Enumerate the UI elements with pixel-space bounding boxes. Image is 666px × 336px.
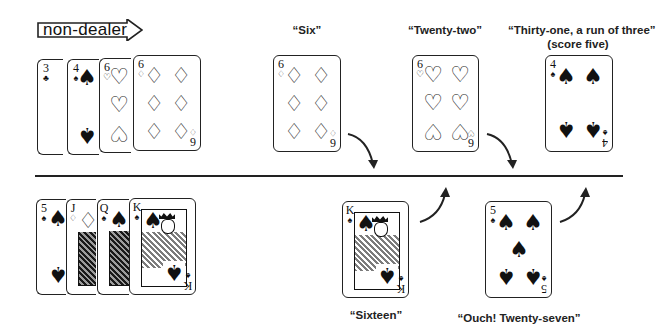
hand-card-K-spades: K♠ ♠ ♠ K♠ bbox=[129, 198, 196, 295]
diamond-pip-icon: ♢ bbox=[170, 65, 192, 87]
curved-arrow-down-icon bbox=[345, 130, 385, 170]
heart-pip-icon: ♡ bbox=[108, 94, 130, 116]
card-rank: 4 bbox=[602, 136, 608, 150]
curved-arrow-up-icon bbox=[418, 186, 452, 226]
played-card-6-hearts: 6♡ ♡ ♡ ♡ ♡ ♡ ♡ 6♡ bbox=[412, 55, 479, 152]
hand-card-6-hearts: 6♡ ♡ ♡ ♡ bbox=[99, 58, 131, 153]
card-rank: 6 bbox=[330, 136, 336, 150]
diamond-pip-icon: ♢ bbox=[283, 93, 305, 115]
spade-pip-icon: ♠ bbox=[355, 213, 377, 235]
heart-pip-icon: ♡ bbox=[449, 92, 471, 114]
turn-divider bbox=[35, 175, 623, 177]
diamond-pip-icon: ♢ bbox=[310, 65, 332, 87]
spade-pip-icon: ♠ bbox=[495, 265, 517, 287]
diamond-pip-icon: ♢ bbox=[283, 121, 305, 143]
play-caption-six: “Six” bbox=[273, 24, 341, 36]
play-caption-ouch-twenty-seven: “Ouch! Twenty-seven” bbox=[455, 312, 583, 324]
played-card-4-spades: 4♠ ♠ ♠ ♠ ♠ 4♠ bbox=[545, 55, 613, 152]
spade-pip-icon: ♠ bbox=[582, 66, 604, 88]
spade-pip-icon: ♠ bbox=[142, 210, 164, 232]
diamond-pip-icon: ♢ bbox=[143, 65, 165, 87]
spade-pip-icon: ♠ bbox=[47, 208, 66, 230]
diamond-pip-icon: ♢ bbox=[310, 93, 332, 115]
play-caption-sixteen: “Sixteen” bbox=[340, 309, 412, 321]
spade-pip-icon: ♠ bbox=[508, 239, 530, 261]
curved-arrow-up-icon bbox=[558, 186, 592, 226]
card-rank: 6 bbox=[190, 135, 196, 149]
card-rank: 6 bbox=[468, 136, 474, 150]
spade-pip-icon: ♠ bbox=[76, 67, 98, 89]
heart-pip-icon: ♡ bbox=[108, 66, 130, 88]
diamond-icon: ♢ bbox=[188, 127, 198, 136]
spade-pip-icon: ♠ bbox=[522, 212, 544, 234]
spade-pip-icon: ♠ bbox=[47, 263, 66, 285]
spade-pip-icon: ♠ bbox=[376, 264, 398, 286]
curved-arrow-down-icon bbox=[484, 130, 524, 170]
heart-pip-icon: ♡ bbox=[422, 120, 444, 142]
played-card-6-diamonds: 6♢ ♢ ♢ ♢ ♢ ♢ ♢ 6♢ bbox=[273, 55, 341, 152]
banner-label: non-dealer bbox=[43, 20, 127, 40]
club-icon: ♣ bbox=[41, 74, 51, 83]
card-rank: K bbox=[184, 279, 193, 293]
spade-pip-icon: ♠ bbox=[163, 261, 185, 283]
diamond-pip-icon: ♢ bbox=[143, 93, 165, 115]
heart-pip-icon: ♡ bbox=[422, 64, 444, 86]
play-caption-twenty-two: “Twenty-two” bbox=[404, 24, 486, 36]
diamond-pip-icon: ♢ bbox=[77, 210, 96, 232]
heart-icon: ♡ bbox=[466, 128, 476, 137]
hand-card-3-clubs: 3♣ bbox=[37, 59, 63, 155]
hand-card-5-spades: 5♠ ♠ ♠ bbox=[36, 199, 66, 295]
heart-pip-icon: ♡ bbox=[108, 122, 130, 144]
card-rank: K bbox=[397, 282, 406, 296]
play-caption-score-five: (score five) bbox=[508, 38, 648, 50]
spade-pip-icon: ♠ bbox=[555, 118, 577, 140]
diamond-pip-icon: ♢ bbox=[170, 93, 192, 115]
card-rank: 5 bbox=[541, 282, 547, 296]
diamond-pip-icon: ♢ bbox=[143, 121, 165, 143]
heart-pip-icon: ♡ bbox=[422, 92, 444, 114]
diamond-pip-icon: ♢ bbox=[283, 65, 305, 87]
spade-pip-icon: ♠ bbox=[555, 66, 577, 88]
heart-pip-icon: ♡ bbox=[449, 64, 471, 86]
hand-card-4-spades: 4♠ ♠ ♠ bbox=[67, 59, 99, 155]
spade-pip-icon: ♠ bbox=[76, 124, 98, 146]
played-card-5-spades: 5♠ ♠ ♠ ♠ ♠ ♠ 5♠ bbox=[485, 201, 552, 298]
hand-card-6-diamonds: 6♢ ♢ ♢ ♢ ♢ ♢ ♢ 6♢ bbox=[133, 55, 201, 151]
hand-card-J-diamonds: J♢ ♢ bbox=[66, 199, 96, 295]
played-card-K-spades: K♠ ♠ ♠ K♠ bbox=[342, 201, 409, 298]
play-caption-thirty-one: “Thirty-one, a run of three” bbox=[508, 24, 648, 36]
spade-pip-icon: ♠ bbox=[108, 209, 129, 231]
hand-card-Q-spades: Q♠ ♠ bbox=[97, 199, 129, 295]
diamond-icon: ♢ bbox=[328, 128, 338, 137]
spade-pip-icon: ♠ bbox=[495, 212, 517, 234]
